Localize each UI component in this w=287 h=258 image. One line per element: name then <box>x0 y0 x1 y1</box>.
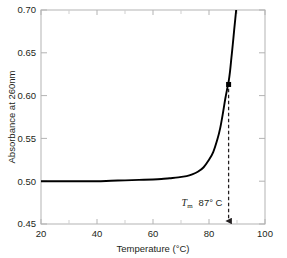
y-tick-label: 0.70 <box>18 4 37 15</box>
x-tick-label: 80 <box>204 228 215 239</box>
chart-canvas: 20406080100 0.450.500.550.600.650.70 Tm … <box>0 0 287 258</box>
y-tick-label: 0.55 <box>18 133 37 144</box>
y-tick-label: 0.45 <box>18 218 37 229</box>
melting-curve-figure: 20406080100 0.450.500.550.600.650.70 Tm … <box>0 0 287 258</box>
tm-annotation-label: Tm <box>182 197 194 210</box>
tm-annotation-value: 87° C <box>199 197 223 208</box>
plot-frame <box>41 10 265 224</box>
x-axis-ticks <box>41 10 265 224</box>
y-tick-label: 0.50 <box>18 176 37 187</box>
x-tick-label: 60 <box>148 228 159 239</box>
x-axis-tick-labels: 20406080100 <box>36 228 273 239</box>
x-tick-label: 40 <box>92 228 103 239</box>
y-tick-label: 0.60 <box>18 90 37 101</box>
y-axis-title: Absorbance at 260nm <box>6 70 17 163</box>
y-axis-ticks <box>41 10 265 224</box>
y-axis-tick-labels: 0.450.500.550.600.650.70 <box>18 4 37 229</box>
melting-curve-line <box>41 7 236 181</box>
y-tick-label: 0.65 <box>18 47 37 58</box>
x-tick-label: 20 <box>36 228 47 239</box>
x-axis-title: Temperature (°C) <box>117 243 190 254</box>
tm-point-marker <box>226 82 231 87</box>
x-tick-label: 100 <box>257 228 273 239</box>
